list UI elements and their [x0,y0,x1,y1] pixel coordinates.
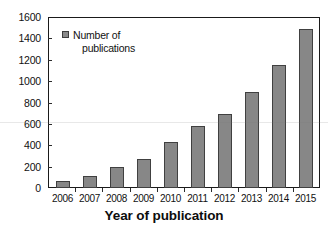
y-axis: 02004006008001000120014001600 [0,17,48,188]
legend-label-line2: publications [73,42,135,55]
bar-2014 [272,65,286,188]
y-tick-label: 1400 [18,33,41,43]
bar-2008 [110,167,124,188]
x-tick-mark [211,188,212,192]
x-tick-mark [184,188,185,192]
x-tick-label-2006: 2006 [52,193,73,204]
bar-2009 [137,159,151,188]
y-tick-label: 800 [24,98,41,108]
x-tick-label-2012: 2012 [214,193,235,204]
y-tick-label: 0 [35,183,41,193]
x-tick-label-2008: 2008 [106,193,127,204]
x-tick-label-2007: 2007 [79,193,100,204]
x-tick-label-2015: 2015 [295,193,316,204]
y-tick-label: 1000 [18,76,41,86]
bar-2015 [299,29,313,188]
y-tick-label: 1200 [18,55,41,65]
bar-2007 [83,176,97,188]
legend-swatch-icon [62,31,69,38]
bar-2012 [218,114,232,188]
y-tick-label: 1600 [18,12,41,22]
bar-2011 [191,126,205,188]
x-tick-mark [238,188,239,192]
bar-2010 [164,142,178,188]
bar-2006 [56,181,70,188]
x-tick-label-2013: 2013 [241,193,262,204]
legend-label-line1: Number of [73,29,120,41]
x-tick-label-2011: 2011 [187,193,207,204]
x-axis-title: Year of publication [0,208,328,223]
y-tick-label: 200 [24,162,41,172]
x-tick-label-2010: 2010 [160,193,181,204]
bar-2013 [245,92,259,188]
chart-legend: Number of publications [62,29,135,54]
y-tick-label: 600 [24,119,41,129]
x-tick-mark [266,188,267,192]
legend-label: Number of publications [73,29,135,54]
x-tick-mark [157,188,158,192]
x-tick-mark [75,188,76,192]
x-tick-mark [293,188,294,192]
y-tick-label: 400 [24,140,41,150]
bar-chart: 02004006008001000120014001600 Number of … [0,0,328,230]
x-tick-mark [102,188,103,192]
x-tick-label-2014: 2014 [268,193,289,204]
x-tick-mark [130,188,131,192]
x-tick-label-2009: 2009 [133,193,154,204]
